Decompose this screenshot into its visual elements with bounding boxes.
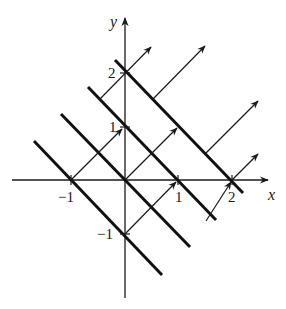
y-axis-label: y [108,13,118,31]
y-tick-label-2: 2 [108,65,116,81]
x-tick-label-1: 1 [175,189,183,205]
diagram-canvas: y x −1 1 2 2 1 −1 [0,0,286,309]
vector-arrow [153,46,205,99]
y-tick-label-1: 1 [109,119,117,135]
y-tick-label-minus1: −1 [97,226,113,242]
x-axis-label: x [267,186,275,203]
level-line-2 [115,60,243,193]
vector-arrow [232,154,258,180]
x-tick-label-minus1: −1 [58,189,74,205]
gradient-vectors [71,46,258,234]
level-lines [34,60,243,275]
vector-arrow [71,129,122,180]
vector-arrow [206,101,258,153]
level-line-minus1 [34,141,162,275]
x-tick-label-2: 2 [228,189,236,205]
